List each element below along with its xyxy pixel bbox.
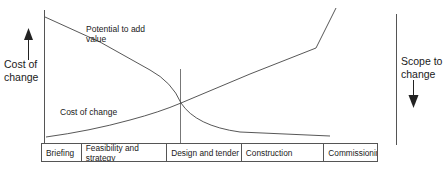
down-arrow-icon — [409, 80, 419, 108]
y-axis-label-left-line2: change — [4, 71, 38, 83]
annotation-potential-line1: Potential to add — [86, 24, 145, 34]
stage-label: Design and tender — [171, 148, 239, 158]
stage-label: Commissioning — [328, 148, 377, 158]
y-axis-label-right-line1: Scope to — [401, 55, 442, 67]
stage-label: Briefing — [46, 148, 74, 158]
y-axis-label-right-line2: change — [401, 68, 435, 80]
stage-table: Briefing Feasibility and strategy Design… — [41, 143, 378, 162]
stage-cell-briefing: Briefing — [42, 144, 82, 161]
stage-label: Feasibility and strategy — [86, 144, 166, 161]
stage-cell-commissioning: Commissioning — [324, 144, 377, 161]
annotation-potential-to-add-value: Potential to addvalue — [86, 24, 172, 45]
y-axis-label-left: Cost ofchange — [4, 58, 60, 84]
stage-label: Construction — [246, 148, 293, 158]
annotation-potential-line2: value — [86, 34, 106, 44]
annotation-cost-line1: Cost of change — [60, 107, 117, 117]
up-arrow-icon — [24, 28, 33, 60]
stage-cell-construction: Construction — [242, 144, 325, 161]
stage-cell-design-and-tender: Design and tender — [167, 144, 242, 161]
annotation-cost-of-change: Cost of change — [60, 107, 150, 117]
y-axis-label-right: Scope tochange — [401, 55, 448, 81]
y-axis-label-left-line1: Cost of — [4, 58, 37, 70]
cost-of-change-diagram: Cost ofchange Scope tochange Potential t… — [0, 0, 448, 174]
stage-cell-feasibility-and-strategy: Feasibility and strategy — [82, 144, 167, 161]
